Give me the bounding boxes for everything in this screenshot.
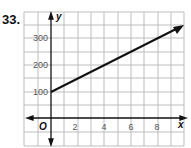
x-tick: 2 [72,122,77,132]
x-tick: 4 [101,122,106,132]
x-tick: 6 [128,122,133,132]
y-tick: 100 [33,87,48,97]
origin-label: O [39,121,47,132]
y-tick: 300 [33,33,48,43]
x-axis-label: x [177,119,184,130]
x-tick: 8 [154,122,159,132]
y-axis-label: y [55,11,62,22]
y-tick: 200 [33,60,48,70]
chart: y x O 2 4 6 8 100 200 300 [0,0,191,148]
